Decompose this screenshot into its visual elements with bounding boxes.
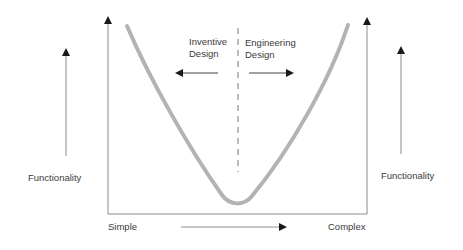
right-y-axis bbox=[363, 17, 371, 214]
complex-label: Complex bbox=[328, 221, 366, 233]
right-functionality-arrow bbox=[397, 46, 405, 154]
v-curve-diagram bbox=[0, 0, 463, 250]
engineering-design-label-line1: Engineering bbox=[245, 37, 296, 49]
engineering-design-arrow bbox=[249, 69, 294, 77]
left-functionality-arrow bbox=[62, 48, 70, 156]
inventive-design-arrow bbox=[175, 69, 218, 77]
left-functionality-label: Functionality bbox=[28, 172, 81, 184]
complexity-arrow bbox=[181, 223, 287, 231]
engineering-design-label-line2: Design bbox=[245, 49, 275, 61]
left-y-axis bbox=[104, 16, 112, 214]
right-functionality-label: Functionality bbox=[381, 170, 434, 182]
inventive-design-label-line1: Inventive bbox=[189, 36, 227, 48]
inventive-design-label-line2: Design bbox=[189, 48, 219, 60]
simple-label: Simple bbox=[108, 221, 137, 233]
